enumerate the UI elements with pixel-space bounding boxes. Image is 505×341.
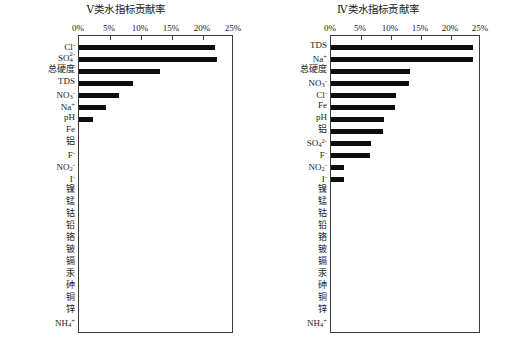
x-tick-label: 25% <box>225 22 242 34</box>
bar-row <box>331 113 479 125</box>
category-label: 总硬度 <box>300 63 330 75</box>
bar-row <box>79 233 232 245</box>
bar-row <box>79 65 232 77</box>
bar <box>331 117 384 122</box>
category-label: 铬 <box>318 231 330 243</box>
bar <box>79 57 217 62</box>
category-label: 镍 <box>318 183 330 195</box>
category-label: 铜 <box>66 291 78 303</box>
bar-row <box>79 113 232 125</box>
category-label: 铝 <box>318 123 330 135</box>
bar <box>79 45 215 50</box>
bar-row <box>79 89 232 101</box>
bar-row <box>79 53 232 65</box>
category-label: NO2- <box>57 159 78 171</box>
x-tick-mark <box>172 36 173 40</box>
category-label: 铝 <box>66 135 78 147</box>
category-label: 镍 <box>66 183 78 195</box>
bar-row <box>79 221 232 233</box>
category-label: 钴 <box>318 207 330 219</box>
bar-row <box>79 209 232 221</box>
category-label: Fe <box>318 99 330 111</box>
category-label: 铅 <box>66 219 78 231</box>
bar-row <box>331 185 479 197</box>
bar-row <box>79 185 232 197</box>
bar <box>331 165 344 170</box>
category-label: NH4+ <box>55 315 78 327</box>
bar-row <box>331 233 479 245</box>
bar-row <box>331 89 479 101</box>
bar <box>331 141 371 146</box>
category-label: 钴 <box>66 207 78 219</box>
bar-series-right <box>331 36 479 332</box>
x-tick-label: 10% <box>382 22 399 34</box>
bar-row <box>79 269 232 281</box>
bar <box>331 57 473 62</box>
bar <box>331 45 473 50</box>
bar-row <box>79 149 232 161</box>
bar <box>331 153 370 158</box>
category-label: 锰 <box>66 195 78 207</box>
chart-panel-class-v: Ⅴ类水指标贡献率 0%5%10%15%20%25% Cl-SO2-4总硬度TDS… <box>0 0 252 341</box>
x-tick-mark <box>451 36 452 40</box>
x-tick-label: 0% <box>72 22 84 34</box>
x-tick-label: 0% <box>324 22 336 34</box>
bar-row <box>79 161 232 173</box>
bar-row <box>79 197 232 209</box>
bar-row <box>79 77 232 89</box>
bar-row <box>331 41 479 53</box>
bar-row <box>79 257 232 269</box>
bar-row <box>79 245 232 257</box>
bar-row <box>79 317 232 329</box>
x-tick-label: 15% <box>163 22 180 34</box>
category-label: 锌 <box>318 303 330 315</box>
x-tick-mark <box>141 36 142 40</box>
category-label: 锌 <box>66 303 78 315</box>
bar-row <box>331 197 479 209</box>
bar-row <box>331 173 479 185</box>
category-label: NO3- <box>57 87 78 99</box>
bar-row <box>79 101 232 113</box>
plot-area-left <box>78 35 233 333</box>
bar-row <box>331 65 479 77</box>
bar-row <box>79 281 232 293</box>
bar-row <box>331 101 479 113</box>
category-label: Na+ <box>313 51 330 63</box>
bar-row <box>331 221 479 233</box>
bar <box>79 93 119 98</box>
category-label: SO2-4 <box>58 51 78 63</box>
category-label: NH4+ <box>307 315 330 327</box>
category-label: TDS <box>58 75 78 87</box>
bar <box>331 93 396 98</box>
category-label: F- <box>320 147 330 159</box>
bar-row <box>331 137 479 149</box>
category-label: NO2- <box>309 159 330 171</box>
bar <box>331 105 395 110</box>
category-label: TDS <box>310 39 330 51</box>
x-tick-mark <box>110 36 111 40</box>
category-label: 砷 <box>66 279 78 291</box>
bar-row <box>79 125 232 137</box>
bar-row <box>79 41 232 53</box>
x-tick-label: 20% <box>194 22 211 34</box>
category-label: SO42- <box>307 135 330 147</box>
x-tick-label: 5% <box>354 22 366 34</box>
plot-area-right <box>330 35 480 333</box>
category-label: 铬 <box>66 231 78 243</box>
chart-title-class-v: Ⅴ类水指标贡献率 <box>0 1 252 16</box>
bar-row <box>331 293 479 305</box>
x-tick-mark <box>361 36 362 40</box>
category-label: F- <box>68 147 78 159</box>
category-label: Fe <box>66 123 78 135</box>
bar-row <box>331 305 479 317</box>
bar-row <box>79 293 232 305</box>
x-tick-label: 20% <box>442 22 459 34</box>
bar-row <box>331 209 479 221</box>
category-label: Na+ <box>61 99 78 111</box>
category-label: 汞 <box>66 267 78 279</box>
category-label: 镉 <box>66 255 78 267</box>
bar-row <box>331 149 479 161</box>
x-tick-label: 15% <box>412 22 429 34</box>
x-tick-mark <box>203 36 204 40</box>
category-label: I- <box>70 171 78 183</box>
